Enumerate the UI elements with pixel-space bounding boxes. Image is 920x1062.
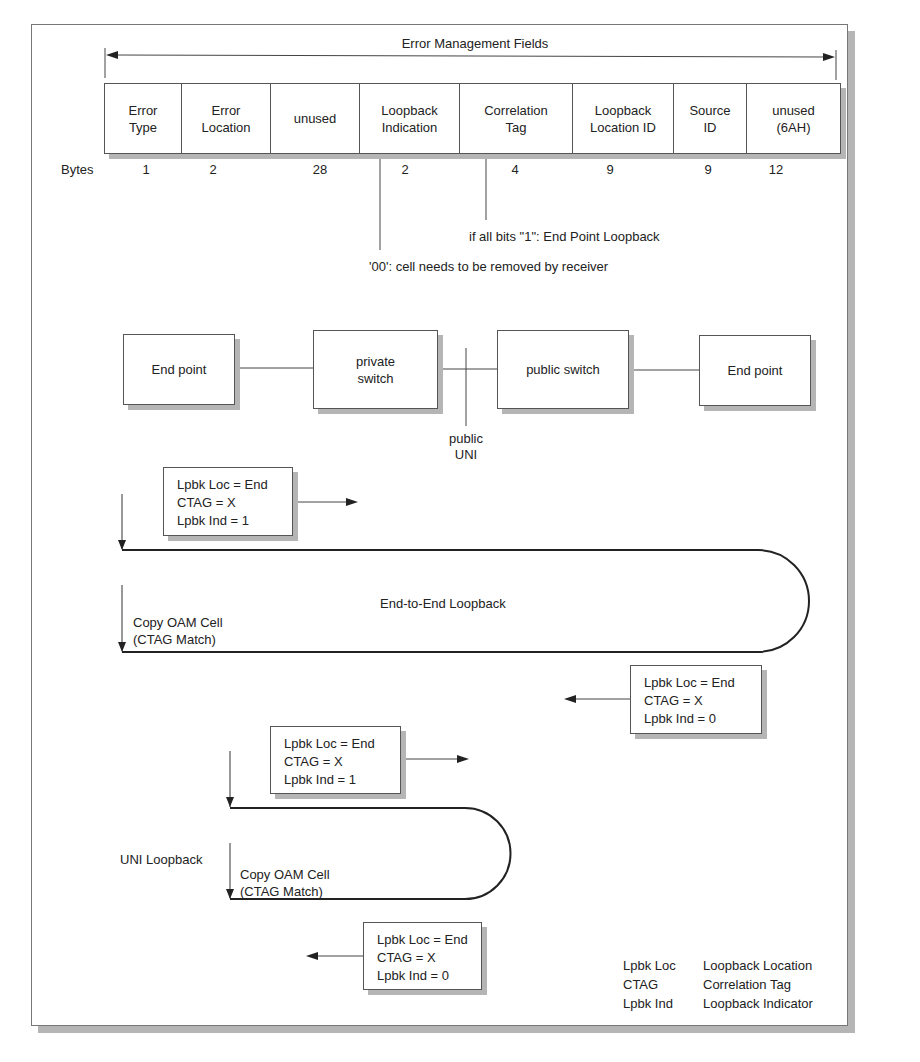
- correlation-tag-note: if all bits "1": End Point Loopback: [469, 229, 660, 245]
- byte-count: 2: [385, 162, 425, 178]
- end-to-end-loopback-label: End-to-End Loopback: [380, 596, 506, 612]
- e2e-copy-oam-cell-label: Copy OAM Cell (CTAG Match): [133, 614, 223, 648]
- field-unused-6ah: unused(6AH): [747, 84, 840, 153]
- legend-row: Lpbk LocLoopback Location: [623, 956, 813, 975]
- end-point-right-box: End point: [699, 335, 811, 406]
- diagram-lines: [0, 0, 920, 1062]
- byte-count: 4: [495, 162, 535, 178]
- byte-count: 2: [193, 162, 233, 178]
- field-error-location: ErrorLocation: [182, 84, 271, 153]
- private-switch-box: privateswitch: [313, 330, 438, 409]
- field-loopback-indication: LoopbackIndication: [360, 84, 460, 153]
- field-unused: unused: [271, 84, 360, 153]
- field-correlation-tag: CorrelationTag: [460, 84, 573, 153]
- field-loopback-location-id: LoopbackLocation ID: [573, 84, 674, 153]
- error-management-fields-label: Error Management Fields: [360, 36, 590, 52]
- uni-return-message-box: Lpbk Loc = End CTAG = X Lpbk Ind = 0: [363, 922, 482, 990]
- public-switch-box: public switch: [497, 330, 629, 409]
- byte-count: 12: [756, 162, 796, 178]
- byte-count: 28: [300, 162, 340, 178]
- end-point-left-box: End point: [123, 334, 235, 405]
- bytes-label: Bytes: [61, 162, 94, 178]
- byte-count: 9: [688, 162, 728, 178]
- uni-copy-oam-cell-label: Copy OAM Cell (CTAG Match): [240, 866, 330, 900]
- e2e-forward-message-box: Lpbk Loc = End CTAG = X Lpbk Ind = 1: [163, 467, 293, 536]
- e2e-return-message-box: Lpbk Loc = End CTAG = X Lpbk Ind = 0: [630, 665, 762, 734]
- legend-row: CTAGCorrelation Tag: [623, 975, 813, 994]
- uni-forward-message-box: Lpbk Loc = End CTAG = X Lpbk Ind = 1: [270, 726, 401, 794]
- oam-cell-field-table: ErrorType ErrorLocation unused LoopbackI…: [104, 83, 841, 154]
- loopback-indication-note: '00': cell needs to be removed by receiv…: [369, 259, 608, 275]
- uni-loopback-label: UNI Loopback: [120, 852, 202, 868]
- legend-row: Lpbk IndLoopback Indicator: [623, 994, 813, 1013]
- public-uni-label: publicUNI: [436, 431, 496, 463]
- byte-count: 1: [126, 162, 166, 178]
- byte-count: 9: [590, 162, 630, 178]
- field-source-id: SourceID: [674, 84, 747, 153]
- field-error-type: ErrorType: [105, 84, 182, 153]
- abbreviation-legend: Lpbk LocLoopback Location CTAGCorrelatio…: [623, 956, 813, 1013]
